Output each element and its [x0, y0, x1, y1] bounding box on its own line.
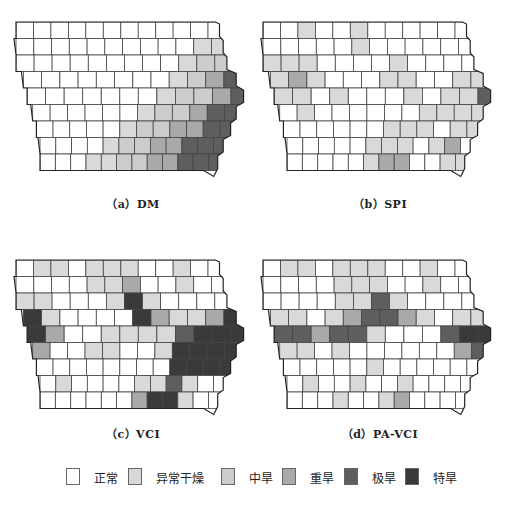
- county-cell: [350, 105, 368, 122]
- county-cell: [52, 39, 70, 56]
- county-cell: [121, 22, 139, 39]
- county-cell: [70, 55, 88, 72]
- county-cell: [281, 22, 299, 39]
- county-cell: [444, 55, 462, 72]
- county-cell: [64, 88, 83, 105]
- county-cell: [156, 22, 174, 39]
- county-cell: [103, 260, 121, 277]
- county-cell: [33, 105, 51, 122]
- county-cell: [87, 376, 103, 393]
- county-cell: [263, 55, 281, 72]
- county-cell: [462, 55, 480, 72]
- county-cell: [206, 72, 224, 89]
- county-cell: [197, 293, 215, 310]
- county-cell: [367, 105, 385, 122]
- county-cell: [40, 376, 56, 393]
- county-cell: [170, 121, 187, 138]
- county-cell: [106, 55, 124, 72]
- iowa-map-vci: [8, 248, 258, 418]
- county-cell: [52, 277, 70, 294]
- county-cell: [385, 260, 403, 277]
- county-cell: [334, 277, 352, 294]
- county-cell: [119, 376, 135, 393]
- county-cell: [270, 310, 288, 327]
- county-cell: [460, 138, 476, 155]
- county-cell: [422, 88, 441, 105]
- county-cell: [166, 376, 182, 393]
- county-cell: [124, 293, 142, 310]
- county-cell: [384, 105, 402, 122]
- county-cell: [390, 55, 408, 72]
- county-cell: [318, 154, 333, 171]
- county-cell: [274, 88, 293, 105]
- county-cell: [367, 359, 384, 376]
- county-cell: [211, 39, 229, 56]
- county-cell: [299, 55, 317, 72]
- county-cell: [70, 293, 88, 310]
- county-cell: [68, 22, 86, 39]
- legend: 正常 异常干燥 中旱 重旱 极旱 特旱: [60, 466, 480, 488]
- county-cell: [213, 326, 232, 343]
- county-cell: [56, 138, 72, 155]
- county-cell: [458, 39, 476, 56]
- county-cell: [379, 392, 394, 409]
- county-cell: [402, 105, 420, 122]
- county-cell: [224, 72, 242, 89]
- county-cell: [397, 376, 413, 393]
- county-cell: [325, 310, 343, 327]
- county-cell: [319, 138, 335, 155]
- county-cell: [362, 72, 380, 89]
- county-cell: [60, 72, 78, 89]
- county-cell: [137, 121, 154, 138]
- county-cell: [132, 392, 147, 409]
- county-cell: [16, 39, 34, 56]
- county-cell: [403, 260, 421, 277]
- county-cell: [208, 22, 226, 39]
- county-cell: [300, 359, 317, 376]
- county-cell: [429, 138, 445, 155]
- county-cell: [147, 392, 162, 409]
- county-cell: [83, 88, 102, 105]
- caption-vci: （c）VCI: [8, 425, 258, 441]
- county-cell: [441, 277, 459, 294]
- county-cell: [46, 326, 65, 343]
- county-cell: [299, 277, 317, 294]
- county-cell: [220, 121, 237, 138]
- county-cell: [280, 343, 298, 360]
- county-cell: [472, 105, 490, 122]
- county-cell: [213, 138, 229, 155]
- county-cell: [380, 72, 398, 89]
- county-cell: [161, 55, 179, 72]
- map-panel-pa-vci: （d）PA-VCI: [255, 248, 505, 473]
- county-cell: [169, 310, 187, 327]
- county-cell: [325, 72, 343, 89]
- county-cell: [86, 260, 104, 277]
- county-cell: [437, 343, 455, 360]
- county-cell: [161, 293, 179, 310]
- county-cell: [176, 39, 194, 56]
- county-cell: [16, 260, 34, 277]
- county-cell: [34, 39, 52, 56]
- county-cell: [225, 343, 243, 360]
- county-cell: [263, 293, 281, 310]
- county-cell: [150, 376, 166, 393]
- county-cell: [438, 22, 456, 39]
- county-cell: [343, 72, 361, 89]
- county-cell: [420, 260, 438, 277]
- county-cell: [86, 121, 103, 138]
- county-cell: [441, 326, 460, 343]
- county-cell: [117, 154, 132, 171]
- county-cell: [208, 392, 223, 409]
- county-cell: [281, 293, 299, 310]
- county-cell: [140, 39, 158, 56]
- county-cell: [350, 343, 368, 360]
- county-cell: [231, 88, 250, 105]
- county-cell: [52, 293, 70, 310]
- county-cell: [16, 293, 34, 310]
- county-cell: [307, 310, 325, 327]
- county-cell: [450, 359, 467, 376]
- county-cell: [225, 105, 243, 122]
- county-cell: [46, 88, 65, 105]
- county-cell: [40, 138, 56, 155]
- county-cell: [454, 343, 472, 360]
